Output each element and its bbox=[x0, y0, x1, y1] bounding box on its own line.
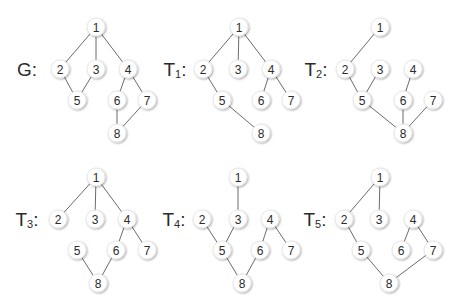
node-7: 7 bbox=[138, 91, 156, 109]
node-8: 8 bbox=[108, 124, 126, 142]
node-5: 5 bbox=[68, 241, 86, 259]
node-4: 4 bbox=[404, 210, 422, 228]
node-label: 4 bbox=[410, 213, 417, 227]
node-3: 3 bbox=[87, 60, 105, 78]
node-1: 1 bbox=[229, 168, 247, 186]
node-2: 2 bbox=[194, 60, 212, 78]
graph-label-colon: : bbox=[33, 209, 38, 230]
node-4: 4 bbox=[118, 210, 136, 228]
node-label: 3 bbox=[377, 63, 384, 77]
node-6: 6 bbox=[108, 91, 126, 109]
node-label: 3 bbox=[235, 63, 242, 77]
graph-label: T1: bbox=[163, 59, 186, 81]
node-1: 1 bbox=[230, 18, 248, 36]
node-5: 5 bbox=[352, 241, 370, 259]
node-7: 7 bbox=[282, 91, 300, 109]
node-label: 6 bbox=[258, 94, 265, 108]
node-label: 2 bbox=[200, 63, 207, 77]
node-label: 1 bbox=[235, 171, 242, 185]
node-3: 3 bbox=[371, 60, 389, 78]
node-label: 8 bbox=[239, 277, 246, 291]
node-6: 6 bbox=[394, 91, 412, 109]
node-label: 8 bbox=[95, 277, 102, 291]
graph-t4: T4:12345678 bbox=[162, 168, 300, 292]
node-6: 6 bbox=[107, 241, 125, 259]
node-8: 8 bbox=[394, 124, 412, 142]
graph-label-main: T bbox=[162, 209, 174, 230]
node-label: 2 bbox=[199, 213, 206, 227]
graph-label-colon: : bbox=[32, 59, 37, 80]
node-2: 2 bbox=[193, 210, 211, 228]
nodes: 12345678 bbox=[335, 168, 442, 292]
node-5: 5 bbox=[68, 91, 86, 109]
node-1: 1 bbox=[87, 168, 105, 186]
node-label: 1 bbox=[377, 171, 384, 185]
node-label: 2 bbox=[55, 213, 62, 227]
node-label: 6 bbox=[257, 244, 264, 258]
node-label: 5 bbox=[74, 94, 81, 108]
graph-t3: T3:12345678 bbox=[15, 168, 156, 292]
node-label: 5 bbox=[359, 94, 366, 108]
graph-label-colon: : bbox=[322, 59, 327, 80]
node-label: 6 bbox=[398, 244, 405, 258]
node-label: 4 bbox=[410, 63, 417, 77]
node-label: 2 bbox=[342, 63, 349, 77]
node-label: 5 bbox=[219, 94, 226, 108]
node-4: 4 bbox=[404, 60, 422, 78]
graph-t5: T5:12345678 bbox=[303, 168, 442, 292]
edges bbox=[58, 177, 147, 283]
nodes: 12345678 bbox=[336, 18, 442, 142]
node-label: 8 bbox=[258, 127, 265, 141]
edges bbox=[60, 27, 147, 133]
node-5: 5 bbox=[213, 91, 231, 109]
node-label: 3 bbox=[92, 213, 99, 227]
graph-label-main: G bbox=[17, 59, 32, 80]
node-8: 8 bbox=[380, 274, 398, 292]
node-4: 4 bbox=[262, 60, 280, 78]
node-label: 2 bbox=[341, 213, 348, 227]
node-5: 5 bbox=[353, 91, 371, 109]
node-2: 2 bbox=[335, 210, 353, 228]
graph-label: T4: bbox=[162, 209, 185, 231]
node-7: 7 bbox=[138, 241, 156, 259]
node-label: 1 bbox=[377, 21, 384, 35]
node-4: 4 bbox=[119, 60, 137, 78]
graph-label-colon: : bbox=[180, 209, 185, 230]
node-label: 6 bbox=[400, 94, 407, 108]
node-label: 7 bbox=[144, 244, 151, 258]
node-1: 1 bbox=[87, 18, 105, 36]
node-label: 1 bbox=[93, 21, 100, 35]
node-label: 7 bbox=[430, 244, 437, 258]
edges bbox=[345, 27, 433, 133]
node-8: 8 bbox=[233, 274, 251, 292]
graph-label-main: T bbox=[303, 209, 315, 230]
node-7: 7 bbox=[424, 91, 442, 109]
node-label: 3 bbox=[376, 213, 383, 227]
graph-label: T3: bbox=[15, 209, 38, 231]
node-3: 3 bbox=[229, 210, 247, 228]
graphs-layer: G:12345678T1:12345678T2:12345678T3:12345… bbox=[15, 18, 442, 292]
node-label: 7 bbox=[288, 244, 295, 258]
node-4: 4 bbox=[261, 210, 279, 228]
node-label: 4 bbox=[267, 213, 274, 227]
node-label: 8 bbox=[386, 277, 393, 291]
node-label: 6 bbox=[113, 244, 120, 258]
node-label: 3 bbox=[93, 63, 100, 77]
node-label: 6 bbox=[114, 94, 121, 108]
node-7: 7 bbox=[282, 241, 300, 259]
edges bbox=[344, 177, 433, 283]
graph-t2: T2:12345678 bbox=[304, 18, 442, 142]
node-label: 3 bbox=[235, 213, 242, 227]
node-2: 2 bbox=[51, 60, 69, 78]
node-3: 3 bbox=[229, 60, 247, 78]
node-3: 3 bbox=[86, 210, 104, 228]
graph-label-colon: : bbox=[181, 59, 186, 80]
node-1: 1 bbox=[371, 18, 389, 36]
node-label: 7 bbox=[288, 94, 295, 108]
node-2: 2 bbox=[49, 210, 67, 228]
node-label: 7 bbox=[430, 94, 437, 108]
node-label: 2 bbox=[57, 63, 64, 77]
graph-label-main: T bbox=[304, 59, 316, 80]
node-2: 2 bbox=[336, 60, 354, 78]
node-7: 7 bbox=[424, 241, 442, 259]
